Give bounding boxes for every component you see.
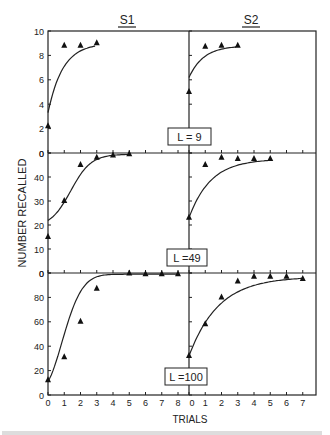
svg-text:6: 6 [39,75,44,85]
recall-curves-figure: 0246810010203040020406080012345678012345… [0,0,330,435]
svg-text:10: 10 [34,245,44,255]
triangle-marker [186,88,192,94]
triangle-marker [45,233,51,239]
svg-text:L = 9: L = 9 [177,131,201,143]
triangle-marker [61,42,67,48]
svg-text:80: 80 [34,293,44,303]
data-points [45,39,306,382]
svg-text:3: 3 [94,398,99,408]
svg-text:1: 1 [203,398,208,408]
svg-text:L =100: L =100 [169,371,203,383]
column-label-s1: S1 [120,13,135,27]
panel-label-l49: L =49 [167,249,207,266]
triangle-marker [235,278,241,284]
panel-label-l100: L =100 [165,368,207,385]
svg-text:2: 2 [78,398,83,408]
svg-text:30: 30 [34,197,44,207]
fit-curves [48,46,303,382]
triangle-marker [202,161,208,167]
triangle-marker [235,42,241,48]
svg-text:60: 60 [34,317,44,327]
triangle-marker [94,154,100,160]
triangle-marker [94,285,100,291]
triangle-marker [219,293,225,299]
svg-text:4: 4 [110,398,115,408]
svg-text:6: 6 [284,398,289,408]
svg-text:0: 0 [39,149,44,159]
svg-text:5: 5 [268,398,273,408]
triangle-marker [45,122,51,128]
triangle-marker [78,42,84,48]
triangle-marker [267,155,273,161]
triangle-marker [78,161,84,167]
triangle-marker [202,43,208,49]
svg-text:3: 3 [235,398,240,408]
plot-frame [48,31,316,395]
svg-text:4: 4 [39,100,44,110]
svg-text:0: 0 [45,398,50,408]
svg-text:4: 4 [251,398,256,408]
svg-text:40: 40 [34,342,44,352]
svg-text:L =49: L =49 [173,252,200,264]
svg-text:7: 7 [300,398,305,408]
triangle-marker [235,155,241,161]
triangle-marker [219,154,225,160]
panel-label-l9: L = 9 [168,128,211,145]
triangle-marker [219,42,225,48]
svg-text:20: 20 [34,221,44,231]
svg-text:6: 6 [143,398,148,408]
caption-cutoff [2,431,322,435]
triangle-marker [61,353,67,359]
triangle-marker [186,352,192,358]
svg-text:0: 0 [39,391,44,401]
svg-text:0: 0 [39,269,44,279]
svg-text:2: 2 [219,398,224,408]
svg-text:1: 1 [62,398,67,408]
triangle-marker [110,151,116,157]
triangle-marker [186,214,192,220]
svg-text:20: 20 [34,366,44,376]
triangle-marker [251,155,257,161]
x-axis-label: TRIALS [172,414,207,425]
axis-ticks [48,31,303,395]
svg-text:40: 40 [34,173,44,183]
svg-text:7: 7 [159,398,164,408]
svg-text:10: 10 [34,27,44,37]
tick-labels: 0246810010203040020406080012345678012345… [34,27,305,409]
column-label-s2: S2 [244,13,259,27]
svg-text:5: 5 [127,398,132,408]
svg-text:0: 0 [189,398,194,408]
svg-text:8: 8 [39,51,44,61]
svg-text:2: 2 [39,124,44,134]
triangle-marker [94,39,100,45]
triangle-marker [202,320,208,326]
svg-text:8: 8 [175,398,180,408]
y-axis-label: NUMBER RECALLED [16,159,28,268]
triangle-marker [78,318,84,324]
